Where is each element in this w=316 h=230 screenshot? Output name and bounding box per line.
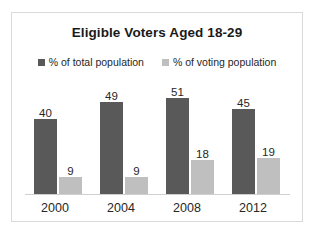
legend-swatch-icon: [162, 59, 169, 66]
x-axis-line: [25, 194, 290, 195]
bar-total-2004: [100, 102, 123, 194]
x-tick-label: 2000: [25, 201, 85, 215]
x-axis-labels: 2000 2004 2008 2012: [25, 201, 290, 225]
x-tick-label: 2012: [223, 201, 283, 215]
bar-total-2008: [166, 98, 189, 194]
bar-group: 51 18: [157, 81, 217, 194]
chart-container: Eligible Voters Aged 18-29 % of total po…: [11, 12, 303, 222]
bar-group: 49 9: [91, 81, 151, 194]
bar-value-label: 49: [95, 90, 129, 102]
x-tick-label: 2004: [91, 201, 151, 215]
bar-voting-2008: [191, 160, 214, 194]
legend-label: % of voting population: [173, 56, 276, 68]
legend-swatch-icon: [38, 59, 45, 66]
bar-value-label: 40: [29, 107, 63, 119]
bar-voting-2012: [257, 158, 280, 194]
chart-title: Eligible Voters Aged 18-29: [12, 25, 302, 40]
chart-legend: % of total population % of voting popula…: [12, 56, 302, 68]
bar-voting-2004: [125, 177, 148, 194]
bar-voting-2000: [59, 177, 82, 194]
legend-label: % of total population: [49, 56, 144, 68]
x-tick-label: 2008: [157, 201, 217, 215]
bar-group: 40 9: [25, 81, 85, 194]
bar-value-label: 45: [227, 97, 261, 109]
bar-total-2000: [34, 119, 57, 194]
bar-value-label: 9: [54, 165, 88, 177]
plot-area: 40 9 49 9 51: [25, 81, 291, 194]
bar-value-label: 51: [161, 86, 195, 98]
legend-item-voting-population: % of voting population: [162, 56, 276, 68]
bar-value-label: 9: [120, 165, 154, 177]
legend-item-total-population: % of total population: [38, 56, 144, 68]
bar-value-label: 19: [252, 146, 286, 158]
bar-group: 45 19: [223, 81, 283, 194]
bar-value-label: 18: [186, 148, 220, 160]
